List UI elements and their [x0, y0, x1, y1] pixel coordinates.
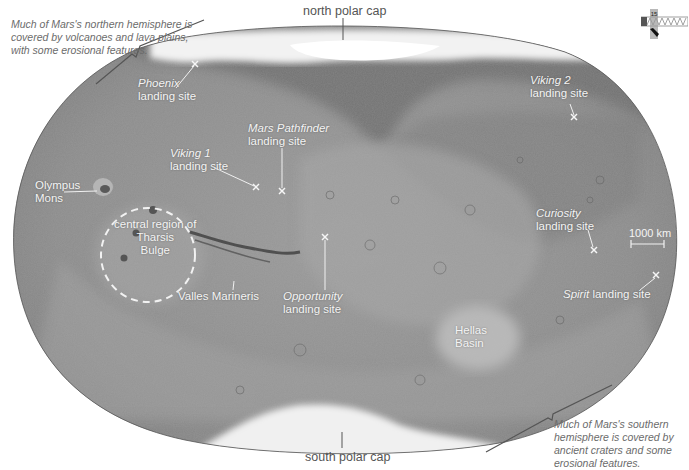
site-suffix: landing site	[248, 135, 329, 148]
north-polar-cap-label: north polar cap	[303, 4, 386, 18]
label-line: Mons	[35, 192, 80, 205]
site-name: Curiosity	[536, 207, 581, 219]
note-line: hemisphere is covered by	[554, 431, 674, 444]
northern-hemisphere-note: Much of Mars's northern hemisphere is co…	[11, 18, 192, 57]
scale-bar-label: 1000 km	[629, 227, 671, 239]
viking1-landing-label: Viking 1 landing site	[170, 147, 228, 173]
site-name: Spirit	[563, 288, 589, 300]
olympus-mons-label: Olympus Mons	[35, 179, 80, 205]
tharsis-label: central region of Tharsis Bulge	[114, 218, 196, 257]
site-name: Opportunity	[283, 290, 342, 302]
spirit-landing-label: Spirit landing site	[563, 288, 651, 301]
opportunity-landing-label: Opportunity landing site	[283, 290, 342, 316]
site-name: Mars Pathfinder	[248, 122, 329, 134]
site-suffix: landing site	[170, 160, 228, 173]
label-line: central region of	[114, 218, 196, 231]
note-line: Much of Mars's northern hemisphere is	[11, 18, 192, 31]
site-name: Viking 1	[170, 147, 211, 159]
note-line: Much of Mars's southern	[554, 418, 674, 431]
label-line: Tharsis	[114, 231, 196, 244]
note-line: covered by volcanoes and lava plains,	[11, 31, 192, 44]
site-suffix: landing site	[530, 87, 588, 100]
hellas-basin-label: Hellas Basin	[455, 324, 487, 350]
label-line: Basin	[455, 337, 487, 350]
site-name: Viking 2	[530, 74, 571, 86]
locator-number: 15	[651, 11, 658, 17]
olympus-mons-volcano	[93, 178, 113, 196]
site-suffix: landing site	[283, 303, 342, 316]
note-line: with some erosional features.	[11, 44, 192, 57]
pathfinder-landing-label: Mars Pathfinder landing site	[248, 122, 329, 148]
site-suffix: landing site	[536, 220, 594, 233]
mars-surface	[0, 0, 689, 470]
mars-map	[0, 0, 689, 470]
southern-hemisphere-note: Much of Mars's southern hemisphere is co…	[554, 418, 674, 470]
south-polar-cap-label: south polar cap	[305, 450, 390, 464]
label-line: Olympus	[35, 179, 80, 192]
curiosity-landing-label: Curiosity landing site	[536, 207, 594, 233]
page-locator-icon: 15	[641, 9, 688, 39]
label-line: Bulge	[114, 244, 196, 257]
site-suffix: landing site	[138, 90, 196, 103]
note-line: erosional features.	[554, 457, 674, 470]
note-line: ancient craters and some	[554, 444, 674, 457]
site-suffix: landing site	[592, 288, 650, 300]
label-line: Hellas	[455, 324, 487, 337]
viking2-landing-label: Viking 2 landing site	[530, 74, 588, 100]
site-name: Phoenix	[138, 77, 180, 89]
phoenix-landing-label: Phoenix landing site	[138, 77, 196, 103]
valles-marineris-label: Valles Marineris	[178, 290, 259, 303]
